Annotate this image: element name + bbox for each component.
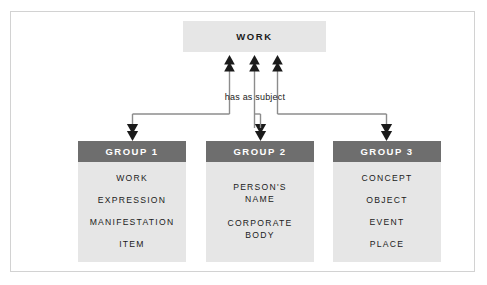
group-2-item: PERSON'S NAME (233, 182, 287, 205)
group-3-header-label: GROUP 3 (360, 146, 413, 157)
group-1-item: MANIFESTATION (90, 217, 175, 229)
group-1-body: WORK EXPRESSION MANIFESTATION ITEM (78, 162, 186, 262)
group-column-2: GROUP 2 PERSON'S NAME CORPORATE BODY (206, 141, 314, 262)
group-1-header-label: GROUP 1 (105, 146, 158, 157)
group-1-header: GROUP 1 (78, 141, 186, 162)
group-1-item: ITEM (119, 239, 145, 251)
node-work: WORK (183, 21, 326, 52)
diagram-root: WORK has as subject GROUP 1 WORK EXPRESS… (0, 0, 487, 285)
relation-label-has-as-subject: has as subject (203, 92, 307, 102)
group-3-item: PLACE (370, 239, 404, 251)
group-3-item: CONCEPT (362, 173, 413, 185)
group-column-3: GROUP 3 CONCEPT OBJECT EVENT PLACE (333, 141, 441, 262)
group-3-item: OBJECT (366, 195, 407, 207)
group-column-1: GROUP 1 WORK EXPRESSION MANIFESTATION IT… (78, 141, 186, 262)
group-2-body: PERSON'S NAME CORPORATE BODY (206, 162, 314, 262)
group-1-item: WORK (116, 173, 148, 185)
group-3-body: CONCEPT OBJECT EVENT PLACE (333, 162, 441, 262)
group-2-header: GROUP 2 (206, 141, 314, 162)
group-2-item: CORPORATE BODY (227, 218, 292, 241)
group-2-header-label: GROUP 2 (233, 146, 286, 157)
group-3-item: EVENT (370, 217, 405, 229)
group-3-header: GROUP 3 (333, 141, 441, 162)
node-work-label: WORK (236, 31, 272, 42)
group-1-item: EXPRESSION (98, 195, 166, 207)
